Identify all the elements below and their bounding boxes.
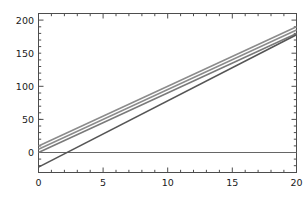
y-tick-label-0: 0 <box>28 147 34 158</box>
x-tick-label-10: 10 <box>162 177 174 188</box>
x-tick-label-20: 20 <box>290 177 302 188</box>
data-line-4 <box>39 35 297 167</box>
y-tick-label-50: 50 <box>22 114 34 125</box>
data-line-1 <box>39 27 297 146</box>
data-line-2 <box>39 30 297 149</box>
y-tick-label-200: 200 <box>16 15 34 26</box>
line-chart: 0 50 100 150 200 0 5 10 15 20 <box>0 0 308 199</box>
plot-container: 0 50 100 150 200 0 5 10 15 20 <box>0 0 308 199</box>
y-tick-label-150: 150 <box>16 48 34 59</box>
data-line-3 <box>39 33 297 152</box>
x-tick-label-0: 0 <box>35 177 41 188</box>
x-axis-ticks <box>39 168 297 173</box>
x-tick-label-15: 15 <box>226 177 238 188</box>
y-axis-ticks-right <box>292 20 297 166</box>
x-tick-label-5: 5 <box>100 177 106 188</box>
x-axis-ticks-top <box>39 14 297 19</box>
y-tick-label-100: 100 <box>16 81 34 92</box>
